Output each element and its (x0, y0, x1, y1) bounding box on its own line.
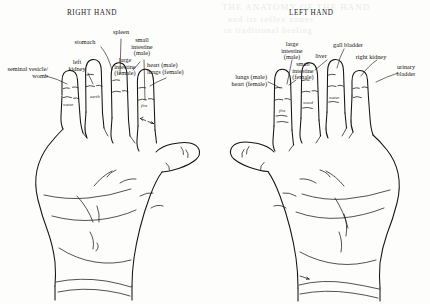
label-lungs-male-heart-female: lungs (male) heart (female) (207, 74, 267, 87)
label-large-intestine-female: large intestine (female) (107, 57, 143, 77)
label-gall-bladder: gall bladder (324, 42, 372, 49)
label-right-kidney: right kidney (348, 54, 394, 61)
left-hand-drawing (230, 59, 399, 301)
right-hand-drawing (36, 59, 200, 300)
label-large-intestine-male: large intestine (male) (274, 41, 310, 61)
label-seminal-vesicle-womb: seminal vesicle/ womb (0, 66, 48, 79)
label-heart-male-lungs-female: heart (male) lungs (female) (147, 62, 209, 75)
element-label-fire-left: fire (279, 108, 285, 113)
panel-title-right-hand: RIGHT HAND (67, 9, 117, 17)
element-label-fire-right: fire (141, 103, 147, 108)
element-label-water-left: water (329, 95, 339, 100)
label-small-intestine-male: small intestine (male) (124, 37, 160, 57)
element-label-wood-left: wood (303, 100, 313, 105)
label-spleen: spleen (103, 29, 139, 36)
element-label-earth-right: earth (90, 94, 100, 99)
label-stomach: stomach (63, 39, 107, 46)
label-urinary-bladder: urinary bladder (385, 64, 427, 77)
label-liver: liver (308, 53, 334, 60)
hand-reflexology-figure: THE ANATOMY OF THE HAND and its reflex z… (0, 0, 430, 304)
label-left-kidney: left kidney (62, 59, 92, 72)
label-small-intestine-female: small intestine (female) (285, 61, 321, 81)
panel-title-left-hand: LEFT HAND (289, 9, 334, 17)
element-label-water-right: water (63, 102, 73, 107)
